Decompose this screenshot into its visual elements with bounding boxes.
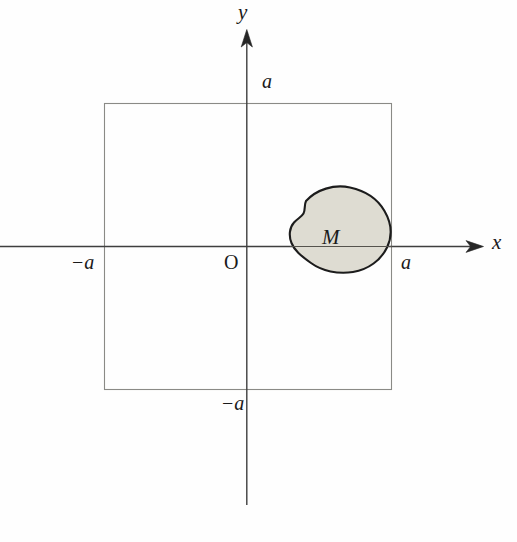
figure-canvas: y x a a −a −a O M — [0, 0, 517, 542]
x-axis-label: x — [492, 232, 501, 253]
region-M-label: M — [322, 227, 340, 248]
minus-glyph-left: − — [72, 252, 83, 272]
tick-label-minus-a-bottom: −a — [222, 393, 244, 413]
origin-label: O — [224, 252, 238, 272]
region-M-shape — [290, 186, 391, 272]
tick-label-minus-a-left: −a — [72, 252, 94, 272]
tick-label-minus-a-left-value: a — [84, 251, 94, 273]
tick-label-minus-a-bottom-value: a — [234, 392, 244, 414]
y-axis-label: y — [238, 2, 247, 23]
tick-label-a-right: a — [401, 252, 411, 272]
tick-label-a-top: a — [262, 71, 272, 91]
minus-glyph-bottom: − — [222, 393, 233, 413]
